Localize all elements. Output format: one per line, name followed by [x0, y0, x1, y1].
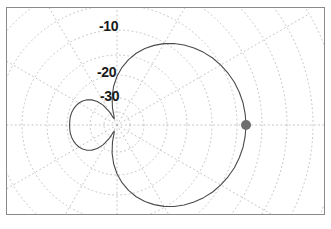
peak-marker[interactable]	[241, 120, 251, 130]
grid-ring	[7, 8, 313, 214]
grid-rings	[7, 8, 324, 214]
grid-spoke	[117, 14, 309, 125]
grid-ring	[7, 8, 262, 214]
polar-chart-canvas	[7, 8, 324, 214]
ring-label-minus-10: -10	[99, 19, 118, 33]
polar-plot-figure: -10 -20 -30	[0, 0, 331, 229]
plot-area: -10 -20 -30	[6, 7, 325, 215]
grid-spoke	[117, 8, 228, 125]
ring-label-minus-20: -20	[97, 65, 116, 79]
grid-spoke	[117, 125, 309, 214]
ring-label-minus-30: -30	[100, 89, 119, 103]
